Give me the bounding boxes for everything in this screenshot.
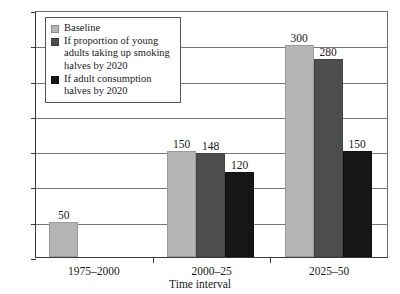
- y-tick-mark-350: [31, 12, 36, 13]
- legend-item-adult-consumption: If adult consumption halves by 2020: [51, 73, 175, 97]
- y-tick-mark-250: [31, 83, 36, 84]
- bar-value-label: 280: [305, 47, 352, 59]
- legend-item-baseline: Baseline: [51, 22, 175, 34]
- bar-value-label: 50: [40, 210, 87, 222]
- y-tick-mark-50: [31, 224, 36, 225]
- x-tick-label-2: 2025–50: [269, 265, 389, 277]
- bar-value-label: 120: [216, 160, 263, 172]
- legend-swatch-adult-consumption-icon: [51, 76, 59, 84]
- legend-label-baseline: Baseline: [64, 22, 100, 34]
- bar-value-label: 150: [334, 139, 381, 151]
- bar-young-adults-halve-2025_50: [314, 59, 343, 257]
- legend-swatch-baseline-icon: [51, 25, 59, 33]
- x-tick-label-1: 2000–25: [152, 265, 272, 277]
- x-tick-label-0: 1975–2000: [34, 265, 154, 277]
- y-tick-mark-100: [31, 188, 36, 189]
- bar-adult-consumption-halve-2025_50: [343, 151, 372, 257]
- x-axis-group-separator-2: [270, 258, 271, 263]
- x-axis-group-separator-1: [153, 258, 154, 263]
- legend-label-young-adults: If proportion of young adults taking up …: [64, 35, 175, 72]
- y-tick-mark-200: [31, 118, 36, 119]
- y-tick-mark-150: [31, 153, 36, 154]
- legend-label-adult-consumption: If adult consumption halves by 2020: [64, 73, 175, 97]
- y-tick-mark-0: [31, 259, 36, 260]
- bar-chart-figure: 050100150200250300350 501501481203002801…: [0, 0, 400, 294]
- bar-baseline-2000_25: [167, 151, 196, 257]
- bar-value-label: 148: [187, 141, 234, 153]
- bar-baseline-2025_50: [285, 45, 314, 257]
- bar-adult-consumption-halve-2000_25: [225, 172, 254, 257]
- chart-legend: Baseline If proportion of young adults t…: [45, 17, 181, 103]
- y-tick-mark-300: [31, 47, 36, 48]
- x-axis-title: Time interval: [0, 278, 400, 290]
- bar-baseline-1975_2000: [49, 222, 78, 257]
- legend-swatch-young-adults-icon: [51, 38, 59, 46]
- bar-value-label: 300: [276, 33, 323, 45]
- legend-item-young-adults: If proportion of young adults taking up …: [51, 35, 175, 72]
